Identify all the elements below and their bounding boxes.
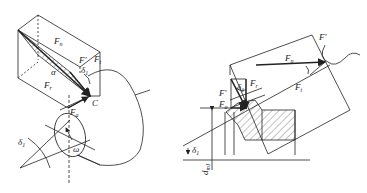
- svg-text:F': F': [318, 32, 327, 42]
- svg-text:δ1: δ1: [192, 145, 199, 156]
- svg-text:α: α: [51, 67, 56, 77]
- gear-end-ellipse: [50, 110, 90, 160]
- svg-text:Fa: Fa: [69, 107, 79, 118]
- svg-text:δ1: δ1: [18, 137, 25, 148]
- svg-text:δ1: δ1: [237, 82, 244, 93]
- svg-text:Fn: Fn: [284, 53, 294, 64]
- bevel-gear-cone: [78, 70, 143, 166]
- svg-text:δ1: δ1: [81, 65, 88, 76]
- svg-text:Fr: Fr: [43, 80, 53, 91]
- svg-text:Fa: Fa: [218, 99, 228, 110]
- svg-text:Fr: Fr: [249, 78, 259, 89]
- svg-text:ω: ω: [73, 144, 79, 154]
- svg-text:F': F': [218, 88, 227, 98]
- svg-text:dm1: dm1: [200, 163, 211, 175]
- left-figure: [18, 15, 150, 185]
- svg-text:F': F': [78, 55, 87, 65]
- svg-text:C: C: [92, 98, 99, 108]
- bevel-gear-force-diagram: Fn F' Ft δ1 α Fr C Fa δ1 ω: [0, 0, 367, 193]
- right-figure: [183, 35, 360, 170]
- svg-text:Fn: Fn: [53, 36, 63, 47]
- svg-text:Ft: Ft: [294, 82, 303, 93]
